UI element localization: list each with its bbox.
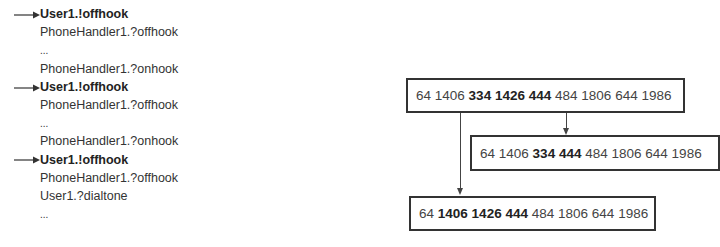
- trace-event-label: ...: [40, 118, 48, 129]
- sequence-text: 64 1406 1426 444 484 1806 644 1986: [419, 206, 648, 221]
- sequence-token-highlighted: 444: [529, 88, 552, 103]
- sequence-token-highlighted: 1426: [495, 88, 525, 103]
- sequence-box-top: 64 1406 334 1426 444 484 1806 644 1986: [406, 78, 685, 113]
- sequence-token-highlighted: 1406: [438, 206, 468, 221]
- sequence-token: 1986: [641, 88, 671, 103]
- trace-event: ...: [40, 41, 48, 59]
- trace-event-label: User1.!offhook: [40, 153, 128, 167]
- sequence-token: 644: [615, 88, 638, 103]
- sequence-token: 1806: [581, 88, 611, 103]
- arrowhead-icon: [563, 128, 569, 135]
- sequence-text: 64 1406 334 444 484 1806 644 1986: [480, 146, 702, 161]
- sequence-token: 484: [532, 206, 555, 221]
- trace-event-label: PhoneHandler1.?onhook: [40, 62, 178, 76]
- sequence-token: 1986: [618, 206, 648, 221]
- sequence-token: 484: [585, 146, 608, 161]
- sequence-token-highlighted: 334: [533, 146, 556, 161]
- trace-event-highlighted: User1.!offhook: [14, 5, 128, 23]
- sequence-text: 64 1406 334 1426 444 484 1806 644 1986: [416, 88, 671, 103]
- trace-event-highlighted: User1.!offhook: [14, 151, 128, 169]
- trace-event: PhoneHandler1.?offhook: [40, 96, 178, 114]
- trace-event-label: PhoneHandler1.?offhook: [40, 98, 178, 112]
- sequence-box-middle: 64 1406 334 444 484 1806 644 1986: [470, 135, 720, 171]
- connector-top-to-bottom: [460, 113, 461, 189]
- sequence-token: 644: [645, 146, 668, 161]
- trace-event-label: User1.!offhook: [40, 80, 128, 94]
- trace-event-label: PhoneHandler1.?offhook: [40, 171, 178, 185]
- trace-event: PhoneHandler1.?onhook: [40, 60, 178, 78]
- trace-event-label: User1.?dialtone: [40, 189, 128, 203]
- arrowhead-icon: [457, 188, 463, 195]
- sequence-token: 1406: [435, 88, 465, 103]
- trace-event: PhoneHandler1.?onhook: [40, 132, 178, 150]
- connector-top-to-middle: [566, 113, 567, 128]
- sequence-token-highlighted: 444: [505, 206, 528, 221]
- trace-event: PhoneHandler1.?offhook: [40, 23, 178, 41]
- trace-event-label: ...: [40, 45, 48, 56]
- arrow-right-icon: [14, 10, 40, 20]
- sequence-token: 1806: [558, 206, 588, 221]
- sequence-token: 64: [416, 88, 431, 103]
- trace-event: ...: [40, 205, 48, 223]
- sequence-box-bottom: 64 1406 1426 444 484 1806 644 1986: [409, 196, 656, 231]
- trace-event: ...: [40, 114, 48, 132]
- sequence-token: 64: [419, 206, 434, 221]
- trace-event: PhoneHandler1.?offhook: [40, 169, 178, 187]
- sequence-token-highlighted: 334: [469, 88, 492, 103]
- trace-event-label: PhoneHandler1.?onhook: [40, 134, 178, 148]
- sequence-token: 1806: [612, 146, 642, 161]
- sequence-token: 644: [592, 206, 615, 221]
- sequence-token: 1986: [672, 146, 702, 161]
- trace-event: User1.?dialtone: [40, 187, 128, 205]
- arrow-right-icon: [14, 155, 40, 165]
- sequence-token: 1406: [499, 146, 529, 161]
- sequence-token-highlighted: 1426: [472, 206, 502, 221]
- sequence-token: 64: [480, 146, 495, 161]
- sequence-token-highlighted: 444: [559, 146, 582, 161]
- trace-event-label: PhoneHandler1.?offhook: [40, 25, 178, 39]
- trace-event-label: User1.!offhook: [40, 7, 128, 21]
- sequence-token: 484: [555, 88, 578, 103]
- arrow-right-icon: [14, 83, 40, 93]
- trace-event-highlighted: User1.!offhook: [14, 78, 128, 96]
- trace-event-label: ...: [40, 209, 48, 220]
